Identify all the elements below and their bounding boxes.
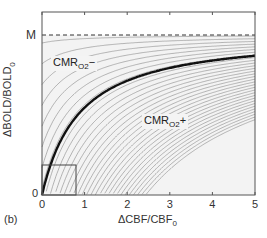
x-tick-1: 1 (82, 198, 88, 210)
x-tick-5: 5 (252, 198, 258, 210)
x-tick-2: 2 (124, 198, 130, 210)
x-axis-label: ΔCBF/CBF0 (118, 213, 177, 228)
cmro2-plus-label: CMRO2+ (142, 114, 188, 129)
x-tick-0: 0 (39, 198, 45, 210)
panel-label: (b) (4, 213, 17, 225)
cmro2-minus-label: CMRO2− (51, 56, 97, 71)
y-axis-label: ΔBOLD/BOLD0 (1, 55, 16, 145)
y-tick-0: 0 (32, 187, 38, 199)
y-tick-m: M (26, 28, 36, 42)
x-tick-4: 4 (209, 198, 215, 210)
x-tick-3: 3 (167, 198, 173, 210)
